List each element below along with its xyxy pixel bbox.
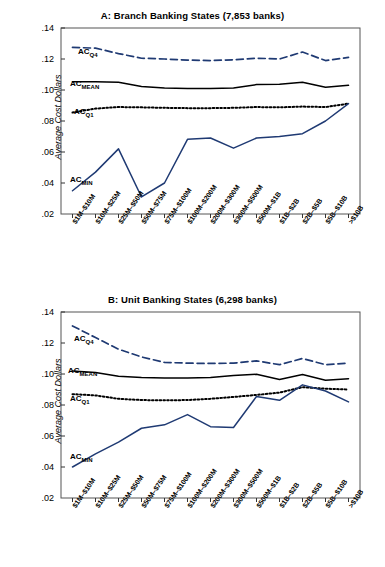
series-line-ac-mean [73, 371, 349, 380]
series-line-ac-q4 [73, 47, 349, 60]
series-label-q4: ACQ4 [78, 47, 98, 58]
series-line-ac-q4 [73, 326, 349, 365]
chart-panel-b: B: Unit Banking States (6,298 banks) Ave… [0, 284, 385, 567]
series-label-min: ACMIN [70, 175, 93, 186]
chart-b-plot: .02.04.06.08.10.12.14 [0, 284, 385, 567]
series-label-q1: ACQ1 [74, 107, 94, 118]
y-tick-label: .14 [41, 23, 54, 33]
y-tick-label: .12 [41, 338, 54, 348]
y-tick-label: .02 [41, 209, 54, 219]
y-tick-label: .10 [41, 369, 54, 379]
y-tick-label: .10 [41, 85, 54, 95]
series-label-q1: ACQ1 [70, 394, 90, 405]
y-tick-label: .08 [41, 400, 54, 410]
series-label-q4: ACQ4 [74, 334, 94, 345]
series-line-ac-q1 [73, 387, 349, 400]
chart-a-plot: .02.04.06.08.10.12.14 [0, 0, 385, 283]
y-tick-label: .06 [41, 147, 54, 157]
series-line-ac-q1 [73, 104, 349, 113]
series-label-mean: ACMEAN [70, 79, 99, 90]
y-tick-label: .12 [41, 54, 54, 64]
chart-panel-a: A: Branch Banking States (7,853 banks) A… [0, 0, 385, 283]
y-tick-label: .06 [41, 431, 54, 441]
series-label-min: ACMIN [70, 452, 93, 463]
series-line-ac-min [73, 104, 349, 197]
y-tick-label: .02 [41, 493, 54, 503]
series-label-mean: ACMEAN [68, 366, 97, 377]
series-line-ac-mean [73, 82, 349, 89]
y-tick-label: .08 [41, 116, 54, 126]
y-tick-label: .04 [41, 462, 54, 472]
y-tick-label: .14 [41, 307, 54, 317]
y-tick-label: .04 [41, 178, 54, 188]
